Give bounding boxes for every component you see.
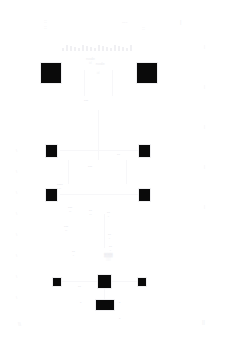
node-label: ••• xyxy=(84,98,88,103)
tick-mark xyxy=(82,45,84,51)
tick-mark xyxy=(118,46,120,51)
tick-mark xyxy=(94,48,96,51)
node-label-sub: •• xyxy=(68,210,72,214)
node-label-sub: • xyxy=(72,254,75,258)
node-label: ••• xyxy=(107,210,110,219)
node-label-sub: ▒▒ xyxy=(104,257,113,261)
node-label: •• xyxy=(117,152,120,157)
node-label-text: ••• xyxy=(88,164,92,169)
left-rail-mark: \ xyxy=(16,274,17,279)
diagram-caption-text: node xyxy=(96,61,105,66)
right-rail-mark: | xyxy=(204,164,205,169)
left-rail-mark: \ xyxy=(16,211,17,216)
node-label: ▓▓▓▒▒ xyxy=(104,252,113,261)
diagram-node[interactable] xyxy=(137,277,147,287)
diagram-caption-sub: id xyxy=(86,71,110,75)
right-rail-mark: | xyxy=(204,44,205,49)
edge-line xyxy=(98,110,99,160)
node-label-sub: • xyxy=(108,237,111,241)
node-label-text: •• xyxy=(78,284,81,289)
tick-strip xyxy=(62,45,132,51)
diagram-node[interactable] xyxy=(45,188,58,202)
node-label: ••• xyxy=(108,232,111,241)
node-label-text: • xyxy=(80,300,81,305)
edge-line xyxy=(112,70,113,96)
top-right-mark: :: xyxy=(142,26,145,32)
tick-mark xyxy=(130,45,132,51)
tick-mark xyxy=(102,46,104,51)
node-label-text: • xyxy=(119,300,120,305)
right-rail-mark: | xyxy=(204,84,205,89)
tick-mark xyxy=(90,47,92,51)
tick-mark xyxy=(70,46,72,51)
tick-mark xyxy=(98,45,100,51)
left-rail-mark: \ xyxy=(16,169,17,174)
tick-mark xyxy=(122,47,124,51)
tick-mark xyxy=(78,48,80,51)
diagram-node[interactable] xyxy=(52,277,62,287)
footer-right-mark: || xyxy=(202,320,205,326)
diagram-node[interactable] xyxy=(45,144,58,158)
diagram-canvas: :: :: --- :: | node id nodeid•••••••••••… xyxy=(0,0,246,340)
left-rail-mark: \ xyxy=(16,295,17,300)
tick-mark xyxy=(66,45,68,51)
node-label: • xyxy=(119,300,120,305)
tick-mark xyxy=(62,48,64,51)
left-rail-mark: \ xyxy=(16,253,17,258)
diagram-node[interactable] xyxy=(95,299,115,311)
node-label: ••••• xyxy=(64,224,68,233)
diagram-node[interactable] xyxy=(97,274,112,289)
tick-mark xyxy=(126,48,128,51)
node-label-sub: •• xyxy=(64,229,68,233)
left-rail-mark: \ xyxy=(16,190,17,195)
node-label-sub: • xyxy=(107,215,110,219)
top-left-mark: :: :: xyxy=(44,19,47,31)
top-mid-mark: --- xyxy=(122,20,128,26)
diagram-node[interactable] xyxy=(136,62,158,84)
diagram-node[interactable] xyxy=(40,62,62,84)
node-label: ••• xyxy=(88,164,92,169)
node-label: • xyxy=(80,300,81,305)
edge-line xyxy=(60,150,138,151)
footer-left-mark: \\ xyxy=(18,322,21,328)
node-label: nodeid xyxy=(86,56,95,65)
right-rail-mark: | xyxy=(204,124,205,129)
far-right-mark: | xyxy=(180,20,182,26)
edge-line xyxy=(84,70,85,96)
tick-mark xyxy=(110,48,112,51)
tick-mark xyxy=(86,46,88,51)
node-label: • xyxy=(119,316,120,321)
edge-line xyxy=(60,194,138,195)
left-rail-mark: \ xyxy=(16,232,17,237)
tick-mark xyxy=(106,47,108,51)
right-rail-mark: | xyxy=(204,204,205,209)
node-label-text: • xyxy=(119,316,120,321)
diagram-node[interactable] xyxy=(138,188,151,202)
diagram-node[interactable] xyxy=(138,144,151,158)
node-label-sub: •• xyxy=(89,213,92,217)
node-label: ••••• xyxy=(68,205,72,214)
tick-mark xyxy=(74,47,76,51)
edge-line xyxy=(68,160,69,184)
node-label-sub: id xyxy=(86,61,95,65)
edge-line xyxy=(126,160,127,184)
node-label: ••• xyxy=(72,249,75,258)
tick-mark xyxy=(114,45,116,51)
edge-line xyxy=(104,214,105,248)
node-label-text: ••• xyxy=(84,98,88,103)
node-label-text: •• xyxy=(117,152,120,157)
left-rail-mark: \ xyxy=(16,148,17,153)
node-label: •• xyxy=(78,284,81,289)
node-label: •••• xyxy=(89,208,92,217)
